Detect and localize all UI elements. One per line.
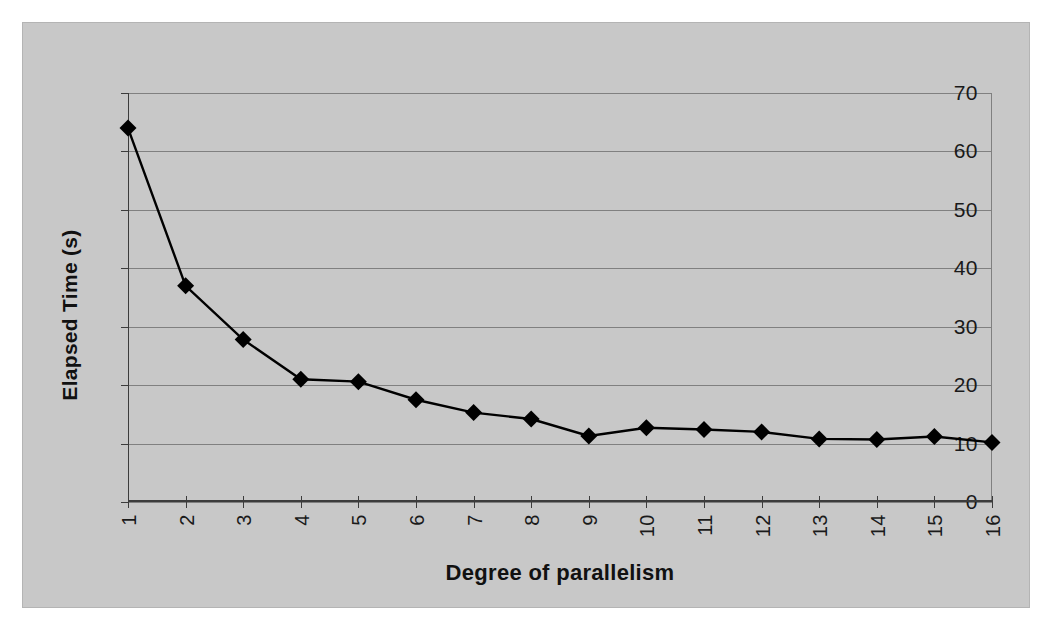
x-axis-tick-label: 14 bbox=[867, 514, 890, 537]
x-axis-tick-label: 9 bbox=[579, 514, 602, 526]
x-axis-tick-label: 1 bbox=[118, 514, 141, 526]
data-point-marker bbox=[408, 391, 425, 408]
x-axis-tick-label: 6 bbox=[406, 514, 429, 526]
data-point-marker bbox=[811, 430, 828, 447]
data-series-line bbox=[128, 93, 992, 502]
data-point-marker bbox=[926, 428, 943, 445]
x-axis-tick-label: 7 bbox=[464, 514, 487, 526]
x-axis-tick-label: 2 bbox=[176, 514, 199, 526]
y-axis-tick-mark bbox=[121, 151, 128, 152]
y-axis-tick-mark bbox=[121, 385, 128, 386]
x-axis-tick-label: 10 bbox=[636, 514, 659, 537]
gridline bbox=[128, 502, 992, 503]
y-axis-tick-mark bbox=[121, 502, 128, 503]
data-point-marker bbox=[696, 421, 713, 438]
series-polyline bbox=[128, 128, 992, 442]
y-axis-tick-mark bbox=[121, 444, 128, 445]
chart-figure: Elapsed Time (s) 010203040506070 1234567… bbox=[22, 22, 1030, 608]
x-axis-tick-label: 16 bbox=[982, 514, 1005, 537]
data-point-marker bbox=[753, 423, 770, 440]
y-axis-tick-mark bbox=[121, 268, 128, 269]
data-point-marker bbox=[523, 411, 540, 428]
y-axis-tick-mark bbox=[121, 210, 128, 211]
x-axis-tick-label: 3 bbox=[233, 514, 256, 526]
x-axis-tick-label: 15 bbox=[924, 514, 947, 537]
data-point-marker bbox=[292, 371, 309, 388]
y-axis-title: Elapsed Time (s) bbox=[58, 229, 82, 400]
x-axis-title: Degree of parallelism bbox=[128, 560, 992, 586]
x-axis-tick-label: 8 bbox=[521, 514, 544, 526]
data-point-marker bbox=[638, 419, 655, 436]
x-axis-tick-label: 13 bbox=[809, 514, 832, 537]
data-point-marker bbox=[350, 373, 367, 390]
x-axis-tick-label: 4 bbox=[291, 514, 314, 526]
data-point-marker bbox=[580, 427, 597, 444]
x-axis-tick-label: 11 bbox=[694, 514, 717, 536]
data-point-marker bbox=[465, 404, 482, 421]
x-axis-tick-label: 5 bbox=[348, 514, 371, 526]
x-axis-tick-label: 12 bbox=[752, 514, 775, 537]
plot-area: 010203040506070 bbox=[128, 93, 992, 502]
x-axis-tick-mark bbox=[992, 496, 993, 508]
y-axis-tick-mark bbox=[121, 327, 128, 328]
series-markers bbox=[120, 120, 1001, 451]
y-axis-tick-mark bbox=[121, 93, 128, 94]
data-point-marker bbox=[868, 431, 885, 448]
